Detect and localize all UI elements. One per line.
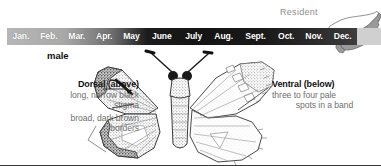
antenna-left: [150, 52, 172, 72]
month-cell-oct: Oct.: [273, 28, 300, 45]
month-cell-dec: Dec.: [328, 28, 357, 45]
range-status-label: Resident: [280, 7, 318, 17]
flight-bar-tail: [357, 28, 381, 45]
antenna-right: [188, 54, 208, 72]
annotation-dorsal-line-3: broad, dark brown: [19, 113, 139, 123]
month-cell-nov: Nov.: [300, 28, 329, 45]
annotation-dorsal-heading: Dorsal (above): [19, 79, 139, 90]
annotation-ventral-line-1: three to four pale: [272, 90, 377, 100]
month-cell-may: May: [118, 28, 145, 45]
month-cell-jan: Jan.: [7, 28, 35, 45]
month-cell-feb: Feb.: [35, 28, 63, 45]
annotation-ventral-line-2: spots in a band: [272, 100, 377, 110]
ventral-view: [190, 62, 274, 165]
annotation-ventral: Ventral (below) three to four pale spots…: [272, 79, 377, 110]
month-cell-aug: Aug.: [209, 28, 239, 45]
sex-label-male: male: [47, 50, 69, 61]
month-cell-apr: Apr.: [91, 28, 118, 45]
annotation-dorsal-line-2: stigma: [19, 100, 139, 110]
month-cell-jul: July: [178, 28, 208, 45]
field-guide-plate: Resident Jan. Feb. Mar. Apr. May June Ju…: [0, 0, 381, 166]
annotation-dorsal: Dorsal (above) long, narrow black stigma…: [19, 79, 139, 133]
annotation-ventral-heading: Ventral (below): [272, 79, 377, 90]
flight-period-bar: Jan. Feb. Mar. Apr. May June July Aug. S…: [7, 28, 357, 45]
month-cell-sep: Sept.: [238, 28, 272, 45]
annotation-dorsal-line-4: borders: [19, 123, 139, 133]
antenna-right-club: [204, 52, 212, 53]
thorax: [170, 78, 190, 99]
antenna-left-club: [146, 51, 154, 53]
annotation-dorsal-line-1: long, narrow black: [19, 90, 139, 100]
month-cell-mar: Mar.: [63, 28, 91, 45]
month-cell-jun: June: [145, 28, 178, 45]
